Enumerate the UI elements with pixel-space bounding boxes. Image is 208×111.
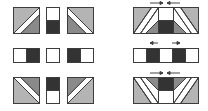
arrow-left-icon [167,72,170,75]
small-white-square [47,49,60,63]
dark-half [27,49,40,63]
arrow-left-icon [167,2,170,5]
rect-dark-white [68,49,94,63]
white-segment [186,49,199,63]
dark-half [68,49,81,63]
white-segment [134,49,147,63]
half-square-triangle-a [14,8,40,34]
rect-white-dark [14,49,40,63]
arrow-right-icon [177,42,180,45]
quilt-block-assembly-diagram [0,0,208,111]
bottom-assembled-strip [134,72,199,104]
half-square-triangle-b [68,8,94,34]
white-segment [160,49,173,63]
half-rect-dark-top [47,78,60,104]
dark-segment [173,49,186,63]
top-assembled-strip [134,2,199,34]
white-half [81,49,94,63]
arrow-right-icon [160,72,163,75]
white-half [14,49,27,63]
half-square-triangle-d [68,78,94,104]
right-assembly-diagram [134,2,199,104]
arrow-left-icon [150,42,153,45]
press-arrows [150,72,180,75]
arrow-right-icon [160,2,163,5]
dark-half [159,78,174,91]
dark-segment [147,49,160,63]
white-half [159,8,174,21]
dark-half [159,21,174,34]
white-half [47,8,60,21]
white-half [47,91,60,104]
white-square [47,49,60,63]
press-arrows [150,2,180,5]
white-half [159,91,174,104]
half-square-triangle-c [14,78,40,104]
dark-half [47,78,60,91]
half-rect-dark-bottom [47,8,60,34]
left-pieces-grid [14,8,94,104]
middle-assembled-strip [134,42,199,63]
dark-half [47,21,60,34]
press-arrows [150,42,180,45]
